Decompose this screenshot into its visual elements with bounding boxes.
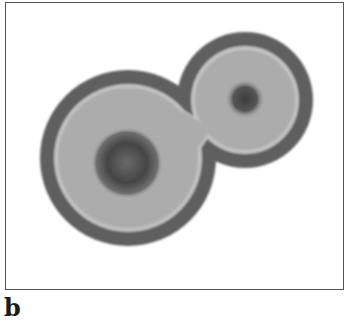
large-core — [91, 127, 163, 199]
small-core — [225, 79, 265, 119]
domain-image — [0, 0, 348, 323]
merged-domains — [40, 32, 313, 246]
panel-label: b — [4, 296, 21, 320]
